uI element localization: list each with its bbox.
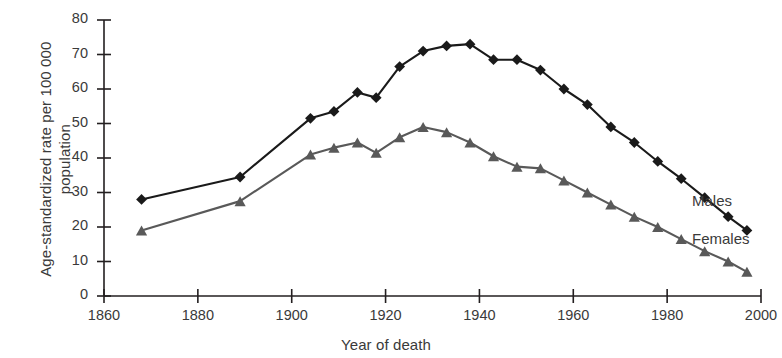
data-point-marker <box>699 246 710 256</box>
y-tick-label: 30 <box>54 183 88 199</box>
series-females <box>136 122 753 277</box>
series-males <box>136 39 752 236</box>
data-point-marker <box>723 257 734 267</box>
data-point-marker <box>136 194 147 205</box>
x-axis-title: Year of death <box>0 336 772 353</box>
y-tick-label: 50 <box>54 114 88 130</box>
x-tick-label: 1900 <box>262 307 322 323</box>
data-point-marker <box>558 175 569 185</box>
y-tick-label: 10 <box>54 252 88 268</box>
x-tick-label: 1920 <box>356 307 416 323</box>
data-point-marker <box>512 54 523 65</box>
data-point-marker <box>441 40 452 51</box>
series-label-females: Females <box>692 230 750 247</box>
y-tick-label: 70 <box>54 45 88 61</box>
data-point-marker <box>465 39 476 50</box>
data-point-marker <box>136 225 147 235</box>
data-point-marker <box>676 234 687 244</box>
x-tick-label: 1880 <box>168 307 228 323</box>
data-series-layer <box>136 39 753 277</box>
data-point-marker <box>394 132 405 142</box>
data-point-marker <box>629 212 640 222</box>
x-tick-label: 2000 <box>731 307 782 323</box>
y-axis-title-line1: Age-standardized rate per 100 000 <box>37 42 54 277</box>
data-point-marker <box>305 150 316 160</box>
data-point-marker <box>418 46 429 57</box>
y-tick-label: 40 <box>54 148 88 164</box>
data-point-marker <box>605 200 616 210</box>
data-point-marker <box>652 222 663 232</box>
y-tick-label: 0 <box>54 286 88 302</box>
data-point-marker <box>464 137 475 147</box>
data-point-marker <box>582 188 593 198</box>
x-tick-label: 1940 <box>449 307 509 323</box>
y-tick-label: 60 <box>54 79 88 95</box>
y-tick-label: 80 <box>54 10 88 26</box>
x-tick-label: 1860 <box>74 307 134 323</box>
data-point-marker <box>488 54 499 65</box>
x-tick-label: 1980 <box>637 307 697 323</box>
series-label-males: Males <box>692 192 732 209</box>
axis-lines <box>104 20 761 296</box>
y-tick-label: 20 <box>54 217 88 233</box>
data-point-marker <box>741 267 752 277</box>
x-tick-label: 1960 <box>543 307 603 323</box>
